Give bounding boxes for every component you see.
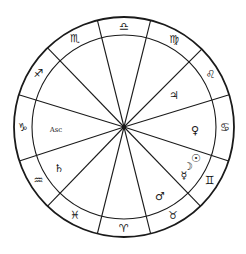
capricorn-sign-icon: ♑ — [18, 121, 28, 134]
pisces-sign-icon: ♓ — [70, 209, 80, 222]
ascendant-label: Asc — [49, 126, 63, 134]
cancer-sign-icon: ♋ — [220, 121, 230, 134]
planet-glyphs: ♃♀☉☽☿♂♄ — [54, 89, 201, 203]
taurus-sign-icon: ♉ — [168, 209, 178, 222]
scorpio-sign-icon: ♏ — [70, 32, 80, 45]
gemini-sign-icon: ♊ — [205, 174, 215, 187]
libra-sign-icon: ♎ — [119, 20, 129, 33]
virgo-sign-icon: ♍ — [170, 33, 180, 46]
mars-planet-icon: ♂ — [155, 190, 165, 203]
saturn-planet-icon: ♄ — [54, 162, 64, 175]
chart-angle-labels: Asc — [49, 126, 63, 134]
natal-chart-wheel: ♎♍♌♋♊♉♈♓♒♑♐♏ ♃♀☉☽☿♂♄ Asc — [0, 0, 246, 254]
leo-sign-icon: ♌ — [206, 68, 216, 81]
aries-sign-icon: ♈ — [119, 222, 129, 235]
mercury-planet-icon: ☿ — [181, 169, 188, 182]
venus-planet-icon: ♀ — [191, 124, 199, 137]
aquarius-sign-icon: ♒ — [33, 174, 43, 187]
jupiter-planet-icon: ♃ — [169, 89, 179, 102]
sagittarius-sign-icon: ♐ — [33, 67, 43, 80]
center-hub — [122, 125, 126, 129]
